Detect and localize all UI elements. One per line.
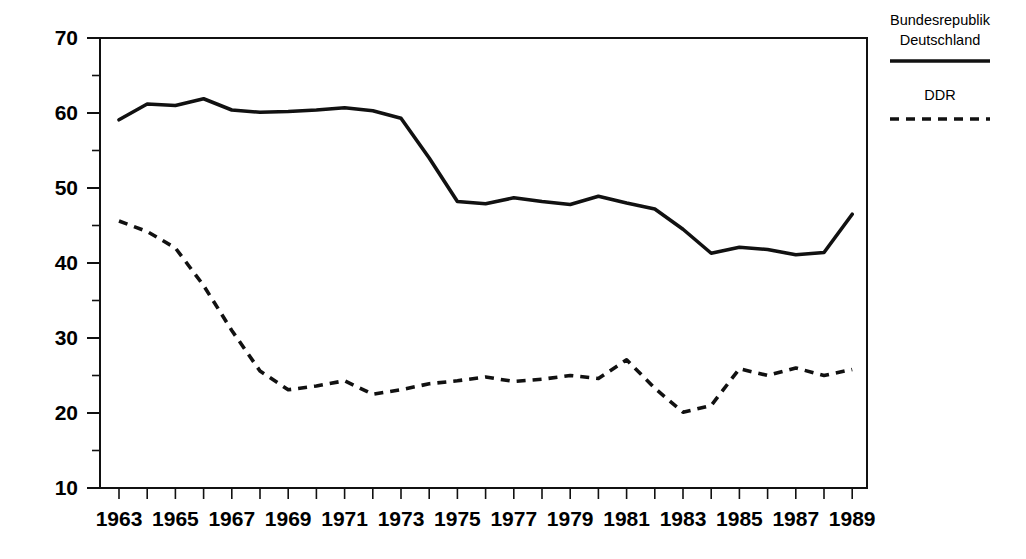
- x-tick-label: 1987: [772, 507, 819, 530]
- line-chart: 10203040506070 1963196519671969197119731…: [0, 0, 1026, 559]
- y-tick-label: 20: [55, 401, 78, 424]
- x-tick-label: 1973: [378, 507, 425, 530]
- x-tick-label: 1975: [434, 507, 481, 530]
- x-tick-label: 1979: [547, 507, 594, 530]
- legend-label-brd-line1: Bundesrepublik: [890, 12, 991, 28]
- x-tick-label: 1985: [716, 507, 763, 530]
- series-line-brd: [119, 99, 852, 255]
- x-tick-label: 1983: [660, 507, 707, 530]
- y-tick-label: 10: [55, 476, 78, 499]
- chart-legend: BundesrepublikDeutschlandDDR: [890, 12, 991, 119]
- y-tick-label: 70: [55, 26, 78, 49]
- legend-label-brd-line2: Deutschland: [900, 32, 981, 48]
- x-tick-label: 1981: [603, 507, 650, 530]
- x-tick-label: 1967: [208, 507, 255, 530]
- x-axis: 1963196519671969197119731975197719791981…: [96, 488, 876, 530]
- chart-container: 10203040506070 1963196519671969197119731…: [0, 0, 1026, 559]
- y-tick-label: 50: [55, 176, 78, 199]
- x-tick-label: 1989: [829, 507, 876, 530]
- y-tick-label: 60: [55, 101, 78, 124]
- x-tick-label: 1971: [321, 507, 368, 530]
- plot-frame: [100, 38, 867, 488]
- y-tick-label: 40: [55, 251, 78, 274]
- x-tick-label: 1977: [490, 507, 537, 530]
- series-line-ddr: [119, 221, 852, 412]
- y-tick-label: 30: [55, 326, 78, 349]
- y-axis: 10203040506070: [55, 26, 100, 499]
- series-layer: [119, 99, 852, 413]
- x-tick-label: 1963: [96, 507, 143, 530]
- x-tick-label: 1965: [152, 507, 199, 530]
- x-tick-label: 1969: [265, 507, 312, 530]
- legend-label-ddr: DDR: [924, 87, 955, 103]
